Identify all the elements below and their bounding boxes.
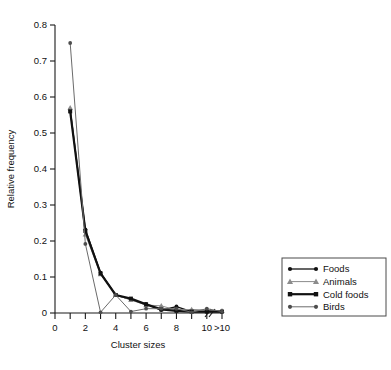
- x-tick-label: 4: [113, 322, 118, 333]
- data-point-marker: [288, 292, 292, 296]
- x-tick-label: 6: [143, 322, 148, 333]
- data-point-marker: [175, 307, 179, 311]
- x-tick-label: 10: [202, 322, 213, 333]
- y-tick-label: 0.4: [34, 163, 47, 174]
- x-tick-label: 8: [174, 322, 179, 333]
- x-axis-label: Cluster sizes: [111, 339, 166, 350]
- data-point-marker: [99, 310, 103, 314]
- y-tick-label: 0.6: [34, 91, 47, 102]
- legend-label: Birds: [323, 301, 345, 312]
- data-point-marker: [129, 297, 133, 301]
- x-tick-label: >10: [214, 322, 230, 333]
- x-axis-ticks: [55, 313, 222, 319]
- series-line: [70, 110, 222, 312]
- data-point-marker: [190, 310, 194, 314]
- plot-area: [67, 41, 224, 314]
- series-birds: [68, 41, 224, 314]
- data-point-marker: [159, 307, 163, 311]
- x-axis-tick-labels: 0246810>10: [52, 322, 230, 333]
- data-point-marker: [68, 109, 72, 113]
- legend-label: Animals: [323, 276, 357, 287]
- data-point-marker: [144, 302, 148, 306]
- series-cold-foods: [68, 109, 224, 313]
- data-point-marker: [314, 267, 318, 271]
- data-point-marker: [67, 105, 73, 110]
- data-point-marker: [114, 293, 118, 297]
- data-point-marker: [83, 242, 87, 246]
- y-axis-label: Relative frequency: [5, 129, 16, 208]
- x-tick-label: 0: [52, 322, 57, 333]
- y-tick-label: 0.8: [34, 19, 47, 30]
- data-point-marker: [288, 267, 292, 271]
- series-foods: [68, 108, 224, 314]
- data-point-marker: [288, 305, 292, 309]
- y-tick-label: 0: [42, 307, 47, 318]
- y-tick-label: 0.3: [34, 199, 47, 210]
- y-tick-label: 0.1: [34, 271, 47, 282]
- y-axis-tick-labels: 00.10.20.30.40.50.60.70.8: [34, 19, 47, 318]
- data-point-marker: [68, 41, 72, 45]
- legend-label: Foods: [323, 263, 350, 274]
- legend-label: Cold foods: [323, 289, 369, 300]
- data-point-marker: [99, 271, 103, 275]
- x-tick-label: 2: [83, 322, 88, 333]
- data-point-marker: [144, 307, 148, 311]
- data-point-marker: [129, 310, 133, 314]
- y-tick-label: 0.7: [34, 55, 47, 66]
- data-point-marker: [314, 305, 318, 309]
- chart-legend: FoodsAnimalsCold foodsBirds: [282, 258, 386, 316]
- y-axis-ticks: [50, 25, 55, 313]
- relative-frequency-line-chart: 00.10.20.30.40.50.60.70.8 0246810>10 Clu…: [0, 0, 391, 370]
- y-tick-label: 0.5: [34, 127, 47, 138]
- data-point-marker: [314, 292, 318, 296]
- series-animals: [67, 105, 224, 313]
- series-line: [70, 111, 222, 311]
- data-point-marker: [220, 310, 224, 314]
- series-line: [70, 43, 222, 312]
- y-tick-label: 0.2: [34, 235, 47, 246]
- data-point-marker: [205, 307, 209, 311]
